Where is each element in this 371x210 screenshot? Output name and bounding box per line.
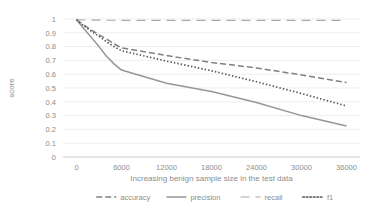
x-tick-label: 12000 xyxy=(156,163,177,172)
data-series xyxy=(77,20,347,126)
legend-label-accuracy[interactable]: accuracy xyxy=(120,193,150,202)
y-tick-label: 0.5 xyxy=(46,84,56,93)
y-tick-label: 0.9 xyxy=(46,29,56,38)
series-line-precision xyxy=(77,20,347,126)
legend-label-recall[interactable]: recall xyxy=(265,193,283,202)
legend-label-precision[interactable]: precision xyxy=(190,193,220,202)
x-tick-label: 30000 xyxy=(291,163,312,172)
x-tick-label: 18000 xyxy=(201,163,222,172)
line-chart: 00.10.20.30.40.50.60.70.80.91 0600012000… xyxy=(0,0,371,210)
series-line-accuracy xyxy=(77,20,347,83)
y-tick-label: 1 xyxy=(52,15,56,24)
legend-label-f1[interactable]: f1 xyxy=(327,193,333,202)
y-tick-label: 0.7 xyxy=(46,56,56,65)
x-tick-label: 6000 xyxy=(113,163,130,172)
x-axis-title: Increasing benign sample size in the tes… xyxy=(130,174,293,183)
y-tick-label: 0.2 xyxy=(46,125,56,134)
y-axis-title: score xyxy=(7,78,16,98)
x-tick-label: 36000 xyxy=(336,163,357,172)
y-tick-label: 0 xyxy=(52,153,56,162)
y-tick-label: 0.6 xyxy=(46,70,56,79)
y-tick-label: 0.3 xyxy=(46,111,56,120)
legend: accuracyprecisionrecallf1 xyxy=(96,193,333,202)
y-tick-label: 0.8 xyxy=(46,42,56,51)
x-tick-label: 0 xyxy=(74,163,78,172)
y-tick-label: 0.4 xyxy=(46,98,56,107)
x-tick-label: 24000 xyxy=(246,163,267,172)
series-line-recall xyxy=(77,20,347,21)
y-tick-label: 0.1 xyxy=(46,139,56,148)
y-axis-tick-labels: 00.10.20.30.40.50.60.70.80.91 xyxy=(46,15,56,162)
x-axis-tick-labels: 060001200018000240003000036000 xyxy=(74,163,357,172)
chart-canvas: 00.10.20.30.40.50.60.70.80.91 0600012000… xyxy=(0,0,371,210)
